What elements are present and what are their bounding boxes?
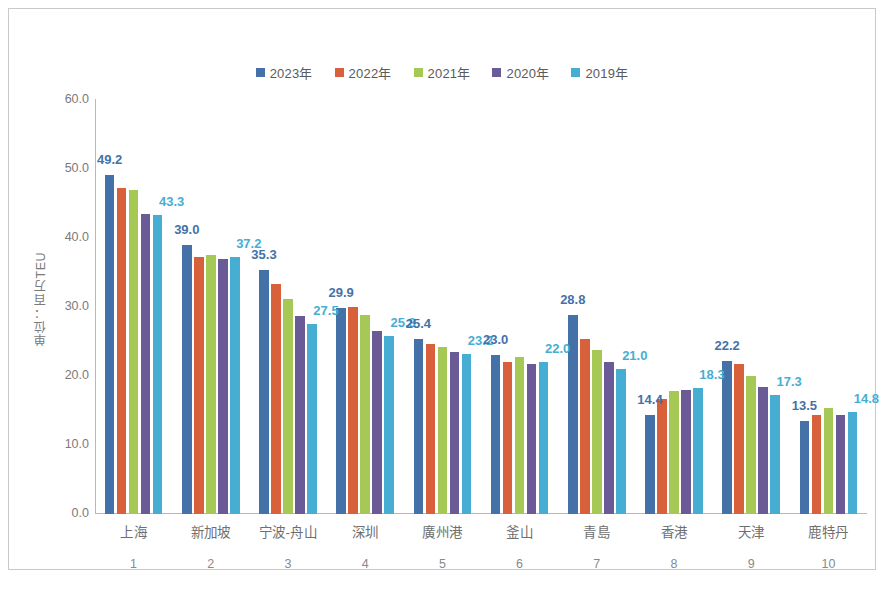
legend-entry-2022年[interactable]: 2022年 xyxy=(335,63,392,82)
bar-fill xyxy=(746,376,756,514)
legend-label: 2022年 xyxy=(349,63,392,82)
bar-2019年-鹿特丹[interactable] xyxy=(848,412,858,514)
bar-fill xyxy=(657,399,667,514)
legend-swatch-icon xyxy=(335,68,344,77)
bar-2021年-廣州港[interactable] xyxy=(438,347,448,514)
bar-2021年-釜山[interactable] xyxy=(515,357,525,514)
bar-2023年-宁波-舟山[interactable] xyxy=(259,270,269,514)
bar-group-釜山 xyxy=(481,99,558,514)
bar-2022年-上海[interactable] xyxy=(117,188,127,514)
bar-2019年-青島[interactable] xyxy=(616,369,626,514)
bar-fill xyxy=(800,421,810,514)
legend-swatch-icon xyxy=(414,68,423,77)
bar-data-label: 13.5 xyxy=(792,398,817,413)
x-axis-category-label-上海: 上海 xyxy=(120,521,147,541)
x-axis-category-label-天津: 天津 xyxy=(738,521,765,541)
bar-fill xyxy=(580,339,590,514)
legend-entry-2021年[interactable]: 2021年 xyxy=(414,63,471,82)
bar-data-label: 22.2 xyxy=(715,338,740,353)
bar-fill xyxy=(515,357,525,514)
bar-group-新加坡 xyxy=(172,99,249,514)
bar-2019年-深圳[interactable] xyxy=(384,336,394,514)
bar-2023年-深圳[interactable] xyxy=(336,308,346,514)
bar-2020年-青島[interactable] xyxy=(604,362,614,514)
bar-fill xyxy=(770,395,780,514)
bar-2019年-香港[interactable] xyxy=(693,388,703,514)
x-axis-rank-label: 9 xyxy=(748,557,755,571)
x-axis-rank-label: 4 xyxy=(362,557,369,571)
bar-2021年-青島[interactable] xyxy=(592,350,602,514)
bar-data-label: 25.4 xyxy=(406,316,431,331)
bar-fill xyxy=(669,391,679,514)
bar-fill xyxy=(182,245,192,514)
bar-2023年-上海[interactable] xyxy=(105,175,115,514)
bar-2022年-香港[interactable] xyxy=(657,399,667,514)
y-axis-tick-label: 0.0 xyxy=(43,506,89,520)
bar-2022年-釜山[interactable] xyxy=(503,362,513,514)
bar-2021年-新加坡[interactable] xyxy=(206,255,216,514)
bar-2022年-深圳[interactable] xyxy=(348,307,358,514)
bar-fill xyxy=(681,390,691,514)
bar-2020年-香港[interactable] xyxy=(681,390,691,514)
y-axis-title: 单位：百万TEU xyxy=(31,252,50,346)
legend-swatch-icon xyxy=(492,68,501,77)
bar-fill xyxy=(218,259,228,514)
bar-fill xyxy=(283,299,293,514)
bar-2019年-上海[interactable] xyxy=(153,215,163,514)
bar-2020年-天津[interactable] xyxy=(758,387,768,514)
bar-2020年-上海[interactable] xyxy=(141,214,151,514)
bar-2021年-天津[interactable] xyxy=(746,376,756,514)
bar-2019年-宁波-舟山[interactable] xyxy=(307,324,317,514)
bar-fill xyxy=(450,352,460,514)
legend-entry-2020年[interactable]: 2020年 xyxy=(492,63,549,82)
bar-2023年-香港[interactable] xyxy=(645,415,655,514)
bar-fill xyxy=(295,316,305,514)
bar-data-label: 14.4 xyxy=(637,392,662,407)
bar-2022年-天津[interactable] xyxy=(734,364,744,514)
bar-2019年-釜山[interactable] xyxy=(539,362,549,514)
bar-2023年-新加坡[interactable] xyxy=(182,245,192,514)
bar-2023年-天津[interactable] xyxy=(722,361,732,514)
bar-2022年-廣州港[interactable] xyxy=(426,344,436,514)
bar-2021年-上海[interactable] xyxy=(129,190,139,514)
bar-2021年-香港[interactable] xyxy=(669,391,679,514)
bar-2023年-廣州港[interactable] xyxy=(414,339,424,514)
bar-data-label: 28.8 xyxy=(560,292,585,307)
bar-2019年-廣州港[interactable] xyxy=(462,354,472,514)
legend-label: 2021年 xyxy=(428,63,471,82)
bar-2022年-宁波-舟山[interactable] xyxy=(271,284,281,514)
bar-2020年-廣州港[interactable] xyxy=(450,352,460,514)
legend-entry-2019年[interactable]: 2019年 xyxy=(571,63,628,82)
bar-2021年-深圳[interactable] xyxy=(360,315,370,514)
bar-fill xyxy=(307,324,317,514)
bar-2022年-青島[interactable] xyxy=(580,339,590,514)
bar-data-label: 18.3 xyxy=(699,367,724,382)
bar-2020年-宁波-舟山[interactable] xyxy=(295,316,305,514)
bar-2021年-宁波-舟山[interactable] xyxy=(283,299,293,514)
bar-2022年-新加坡[interactable] xyxy=(194,257,204,514)
bar-fill xyxy=(360,315,370,514)
bar-2020年-深圳[interactable] xyxy=(372,331,382,514)
bar-2019年-天津[interactable] xyxy=(770,395,780,514)
bar-fill xyxy=(117,188,127,514)
bar-2020年-釜山[interactable] xyxy=(527,364,537,514)
bar-fill xyxy=(348,307,358,514)
bar-fill xyxy=(491,355,501,514)
bar-group-鹿特丹 xyxy=(790,99,867,514)
bar-data-label: 39.0 xyxy=(174,222,199,237)
bar-2019年-新加坡[interactable] xyxy=(230,257,240,514)
bar-fill xyxy=(836,415,846,514)
bar-fill xyxy=(734,364,744,514)
bar-2022年-鹿特丹[interactable] xyxy=(812,415,822,514)
x-axis-rank-label: 1 xyxy=(130,557,137,571)
bar-2023年-鹿特丹[interactable] xyxy=(800,421,810,514)
bar-2021年-鹿特丹[interactable] xyxy=(824,408,834,514)
bar-2023年-釜山[interactable] xyxy=(491,355,501,514)
bar-2020年-鹿特丹[interactable] xyxy=(836,415,846,514)
legend-entry-2023年[interactable]: 2023年 xyxy=(256,63,313,82)
bar-fill xyxy=(848,412,858,514)
bar-fill xyxy=(438,347,448,514)
bar-group-bars xyxy=(172,99,249,514)
y-axis-tick-label: 10.0 xyxy=(43,437,89,451)
bar-2020年-新加坡[interactable] xyxy=(218,259,228,514)
